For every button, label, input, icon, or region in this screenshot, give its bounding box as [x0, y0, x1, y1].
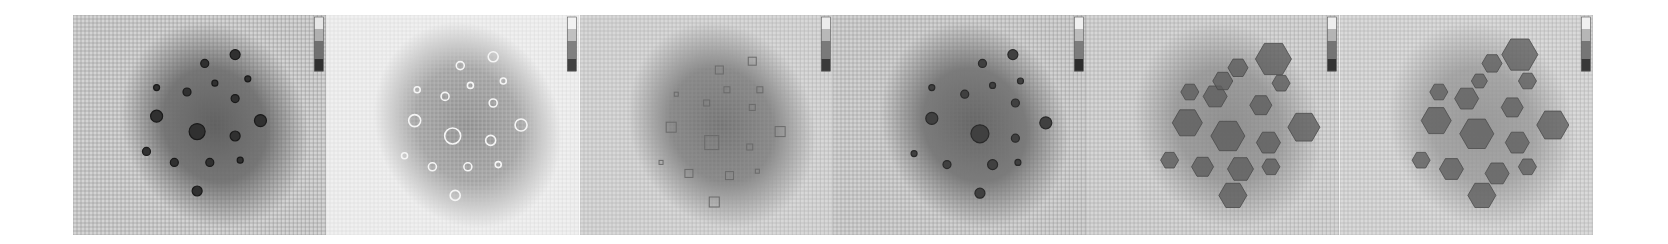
ring-marker: [1017, 78, 1023, 84]
hexagon-marker: [1412, 152, 1430, 168]
hexagon-marker: [1518, 73, 1536, 89]
panel-1: [73, 15, 326, 235]
ring-marker: [189, 124, 205, 140]
colorbar: [821, 17, 830, 71]
heatmap-plot: [326, 15, 579, 235]
hexagon-marker: [1181, 84, 1199, 100]
ring-marker: [183, 88, 191, 96]
ring-marker: [971, 125, 989, 143]
panel-3: [580, 15, 833, 235]
colorbar: [568, 17, 577, 71]
ring-marker: [1011, 99, 1019, 107]
heatmap-plot: [1340, 15, 1593, 235]
ring-marker: [254, 115, 266, 127]
ring-marker: [230, 50, 240, 60]
panel-5: [1086, 15, 1339, 235]
ring-marker: [237, 157, 243, 163]
hexagon-marker: [1272, 75, 1290, 91]
panel-4: [833, 15, 1086, 235]
ring-marker: [990, 82, 996, 88]
heatmap-plot: [73, 15, 326, 235]
colorbar: [1581, 17, 1590, 71]
ring-marker: [1015, 159, 1021, 165]
ring-marker: [961, 90, 969, 98]
hexagon-marker: [1429, 84, 1447, 100]
ring-marker: [245, 76, 251, 82]
ring-marker: [192, 186, 202, 196]
ring-marker: [988, 160, 998, 170]
ring-marker: [929, 85, 935, 91]
panel-6: [1340, 15, 1593, 235]
hexagon-marker: [1471, 74, 1487, 88]
hexagon-marker: [1262, 159, 1280, 175]
ring-marker: [212, 80, 218, 86]
ring-marker: [911, 151, 917, 157]
ring-marker: [201, 59, 209, 67]
ring-marker: [231, 95, 239, 103]
ring-marker: [230, 131, 240, 141]
heatmap-plot: [580, 15, 833, 235]
colorbar: [1074, 17, 1083, 71]
ring-marker: [142, 147, 150, 155]
ring-marker: [1040, 117, 1052, 129]
ring-marker: [1008, 50, 1018, 60]
colorbar: [1328, 17, 1337, 71]
ring-marker: [926, 112, 938, 124]
ring-marker: [975, 188, 985, 198]
heatmap-plot: [833, 15, 1086, 235]
ring-marker: [154, 85, 160, 91]
hexagon-marker: [1161, 152, 1179, 168]
ring-marker: [170, 158, 178, 166]
hexagon-marker: [1518, 159, 1536, 175]
panel-2: [326, 15, 579, 235]
ring-marker: [978, 59, 986, 67]
heatmap-plot: [1086, 15, 1339, 235]
figure-strip: [73, 15, 1593, 235]
ring-marker: [943, 161, 951, 169]
ring-marker: [1011, 134, 1019, 142]
colorbar: [314, 17, 323, 71]
ring-marker: [206, 158, 214, 166]
ring-marker: [151, 110, 163, 122]
